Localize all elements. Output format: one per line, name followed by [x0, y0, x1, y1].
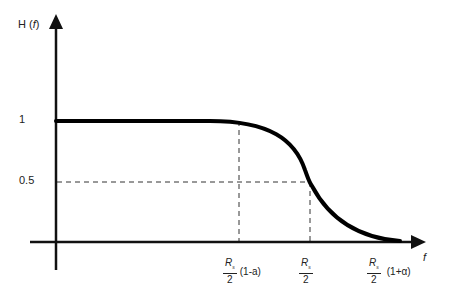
tick-sub: s	[376, 264, 379, 270]
y-tick-1: 1	[19, 113, 25, 125]
tick-suffix: (1-a)	[240, 266, 261, 277]
tick-den: 2	[303, 274, 309, 286]
x-axis-label: f	[423, 251, 426, 263]
tick-sub: s	[232, 264, 235, 270]
y-label-close: )	[36, 18, 40, 30]
x-tick-rolloff-start: Rs2 (1-a)	[223, 257, 261, 286]
response-curve	[56, 121, 400, 241]
y-axis-label: H (f)	[18, 18, 39, 30]
tick-den: 2	[371, 274, 377, 286]
tick-suffix: (1+α)	[387, 266, 411, 277]
tick-den: 2	[227, 274, 233, 286]
x-axis-arrow-icon	[411, 235, 426, 249]
y-label-text: H (	[18, 18, 33, 30]
x-tick-rolloff-end: Rs2 (1+α)	[367, 257, 411, 286]
y-axis-arrow-icon	[49, 14, 63, 29]
y-tick-0-5: 0.5	[19, 174, 34, 186]
tick-sub: s	[308, 264, 311, 270]
x-tick-nyquist: Rs2	[299, 257, 316, 286]
filter-response-plot	[0, 0, 449, 297]
